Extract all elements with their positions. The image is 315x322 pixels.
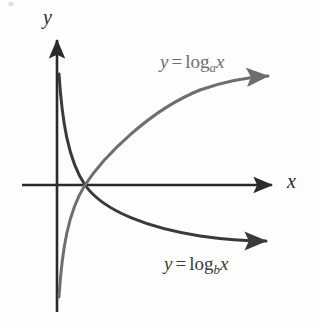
logarithm-graph-figure: y x y=logax y=logbx bbox=[0, 0, 315, 322]
log-b-curve-label: y=logbx bbox=[164, 254, 228, 273]
log-a-label-base: a bbox=[209, 60, 215, 75]
log-b-label-arg: x bbox=[220, 253, 228, 274]
log-a-label-fn: log bbox=[185, 51, 209, 72]
log-b-curve bbox=[59, 74, 266, 241]
y-axis-label: y bbox=[43, 7, 52, 27]
log-a-label-arg: x bbox=[216, 51, 224, 72]
log-a-curve-label: y=logax bbox=[160, 52, 224, 71]
x-axis-label: x bbox=[287, 171, 296, 191]
graph-canvas bbox=[0, 0, 315, 322]
log-b-label-equals: = bbox=[172, 253, 189, 274]
log-a-label-equals: = bbox=[168, 51, 185, 72]
log-b-label-base: b bbox=[213, 262, 219, 277]
log-b-label-fn: log bbox=[189, 253, 213, 274]
